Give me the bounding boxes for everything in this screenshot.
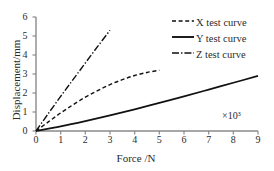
y-tick-label: 4 (18, 49, 32, 60)
x-tick-label: 1 (54, 134, 68, 145)
x-tick-label: 8 (226, 134, 240, 145)
x-tick-label: 5 (152, 134, 166, 145)
curve-y (36, 76, 258, 131)
x-axis-multiplier: ×10³ (222, 110, 241, 121)
y-tick-label: 5 (18, 30, 32, 41)
y-tick-label: 0 (18, 125, 32, 136)
x-tick-label: 7 (202, 134, 216, 145)
chart-figure: Displacement/mm Force /N ×10³ X test cur… (0, 0, 274, 171)
x-tick-label: 3 (103, 134, 117, 145)
y-tick-label: 2 (18, 87, 32, 98)
curve-x (36, 70, 159, 131)
x-tick-label: 6 (177, 134, 191, 145)
legend-label-z: Z test curve (196, 49, 246, 60)
legend-label-y: Y test curve (196, 33, 246, 44)
curve-z (36, 30, 110, 131)
x-tick-label: 2 (78, 134, 92, 145)
x-tick-label: 4 (128, 134, 142, 145)
legend-label-x: X test curve (196, 17, 247, 28)
y-tick-label: 3 (18, 68, 32, 79)
y-tick-label: 1 (18, 106, 32, 117)
x-axis-label: Force /N (96, 152, 176, 164)
y-tick-label: 6 (18, 11, 32, 22)
x-tick-label: 9 (251, 134, 265, 145)
legend-line-samples (172, 21, 194, 53)
